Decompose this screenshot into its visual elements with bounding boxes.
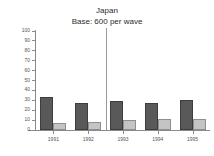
y-tick-label: 0	[27, 126, 30, 132]
chart-subtitle: Base: 600 per wave	[0, 17, 214, 26]
bar-series-2-1994	[158, 119, 171, 130]
y-tick-label: 20	[24, 106, 30, 112]
y-tick-label: 50	[24, 77, 30, 83]
bar-series-2-1993	[123, 120, 136, 130]
x-tick-mark	[193, 131, 194, 134]
x-tick-mark	[123, 131, 124, 134]
x-tick-label: 1994	[140, 136, 175, 142]
y-tick-label: 40	[24, 86, 30, 92]
bar-series-2-1991	[53, 123, 66, 130]
x-tick-label: 1992	[71, 136, 106, 142]
bar-series-1-1992	[75, 103, 88, 130]
bar-chart: Japan Base: 600 per wave 010203040506070…	[0, 0, 214, 156]
y-tick-label: 70	[24, 57, 30, 63]
bar-series-2-1992	[88, 122, 101, 130]
y-tick-label: 80	[24, 47, 30, 53]
x-tick-label: 1993	[106, 136, 141, 142]
x-tick-label: 1995	[175, 136, 210, 142]
x-tick-mark	[158, 131, 159, 134]
chart-title: Japan	[0, 6, 214, 15]
bar-series-2-1995	[193, 119, 206, 130]
y-tick-label: 60	[24, 67, 30, 73]
x-tick-label: 1991	[36, 136, 71, 142]
x-axis-line	[28, 130, 210, 131]
y-tick-label: 10	[24, 116, 30, 122]
x-tick-mark	[53, 131, 54, 134]
bar-series-1-1995	[180, 100, 193, 130]
bar-series-1-1993	[110, 101, 123, 130]
y-tick-label: 30	[24, 96, 30, 102]
x-tick-mark	[88, 131, 89, 134]
y-tick-label: 90	[24, 37, 30, 43]
plot-area	[36, 31, 210, 130]
bar-series-1-1991	[40, 97, 53, 130]
wave-divider-line	[106, 28, 107, 130]
bar-series-1-1994	[145, 103, 158, 130]
y-tick-label: 100	[22, 27, 30, 33]
